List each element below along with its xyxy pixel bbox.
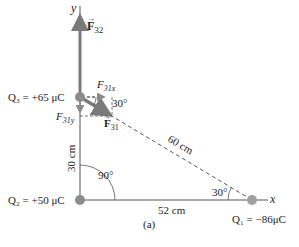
- y-axis-label: y: [70, 1, 77, 15]
- charge-q3: [75, 92, 85, 102]
- coulomb-force-diagram: y x F32 → F31x F31y F31 → 30° 90° 30° Q₃…: [0, 0, 299, 247]
- angle-arc-q3: [94, 97, 96, 105]
- f31x-label: F31x: [96, 78, 116, 93]
- angle-q1-label: 30°: [212, 186, 227, 198]
- angle-q2-label: 90°: [98, 169, 113, 181]
- x-axis-label: x: [269, 192, 276, 206]
- f31-arrow-glyph: →: [104, 113, 111, 121]
- q2-label: Q₂ = +50 μC: [8, 194, 65, 206]
- f31y-label: F31y: [55, 110, 75, 125]
- figure-caption: (a): [143, 218, 156, 231]
- f32-arrow-glyph: →: [87, 14, 95, 23]
- distance-q2-q3: 30 cm: [65, 144, 77, 172]
- charge-q1: [247, 195, 257, 205]
- q3-label: Q₃ = +65 μC: [8, 91, 65, 103]
- angle-arc-q1: [228, 188, 231, 200]
- charge-q2: [75, 195, 85, 205]
- q1-label: Q₁ = −86μC: [232, 213, 286, 225]
- angle-q3-label: 30°: [112, 97, 127, 109]
- distance-q3-q1: 60 cm: [166, 132, 196, 157]
- distance-q2-q1: 52 cm: [158, 204, 186, 216]
